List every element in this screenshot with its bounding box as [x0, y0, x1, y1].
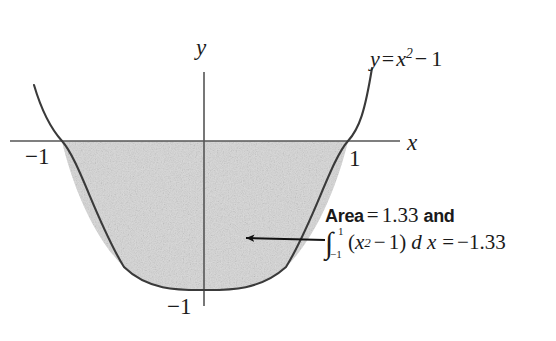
integral-symbol: ∫ 1 −1 — [325, 231, 347, 255]
differential-dx: d x — [406, 230, 436, 255]
curve-equation-y: y — [370, 46, 380, 71]
annotation-area-and: and — [418, 206, 454, 226]
integral-upper-limit: 1 — [338, 227, 344, 236]
integral-lower-limit: −1 — [330, 250, 342, 259]
integrand-minus: − — [371, 230, 389, 255]
annotation-area-word: Area — [325, 206, 364, 226]
curve-equation-x: x — [396, 46, 406, 71]
annotation-integral-line: ∫ 1 −1 (x2−1)d x=−1.33 — [325, 230, 556, 255]
x-tick-label-positive-one: 1 — [349, 147, 361, 170]
x-axis-label: x — [407, 131, 417, 154]
curve-equation-constant: 1 — [429, 46, 444, 71]
shaded-region — [62, 141, 348, 290]
curve-equation-label: y=x2−1 — [370, 47, 444, 70]
annotation-area-line: Area=1.33and — [325, 203, 556, 227]
y-tick-label-negative-one: −1 — [167, 295, 191, 318]
math-figure-canvas — [0, 0, 556, 341]
x-tick-label-negative-one: −1 — [25, 145, 49, 168]
integral-result-value: −1.33 — [457, 230, 506, 255]
integrand-variable: x — [355, 230, 364, 255]
annotation-block: Area=1.33and ∫ 1 −1 (x2−1)d x=−1.33 — [325, 203, 556, 255]
integrand-open-paren: ( — [348, 230, 355, 255]
integrand-constant: 1 — [389, 230, 400, 255]
integrand-close-paren: ) — [399, 230, 406, 255]
integral-result-equals: = — [436, 230, 457, 255]
annotation-area-equals: = — [364, 203, 382, 227]
curve-equation-equals: = — [380, 46, 396, 71]
y-axis-label: y — [196, 36, 206, 59]
curve-equation-minus: − — [413, 46, 429, 71]
curve-equation-exponent: 2 — [406, 46, 413, 61]
annotation-area-value: 1.33 — [382, 203, 419, 227]
